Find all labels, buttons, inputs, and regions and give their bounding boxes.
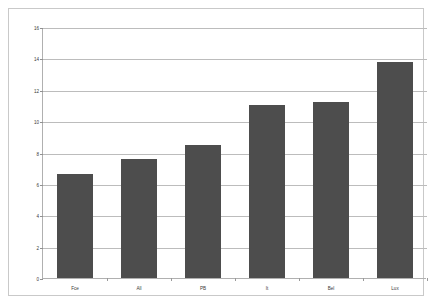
y-axis-tick-mark [40, 28, 43, 29]
x-axis-tick-mark [171, 278, 172, 281]
y-axis-tick-label: 4 [36, 214, 39, 219]
gridline [43, 91, 427, 92]
y-axis-tick-label: 10 [34, 120, 39, 125]
gridline [43, 248, 427, 249]
y-axis-tick-label: 2 [36, 245, 39, 250]
figure-frame: 0246810121416 FceAllPBItBelLux [8, 8, 424, 296]
x-axis-tick-label: Fce [71, 286, 79, 292]
y-axis-tick-mark [40, 185, 43, 186]
y-axis-tick-label: 6 [36, 182, 39, 187]
y-axis-tick-mark [40, 279, 43, 280]
x-axis-tick-label: PB [200, 286, 206, 292]
bar [377, 62, 413, 278]
y-axis-tick-label: 12 [34, 88, 39, 93]
x-axis-tick-mark [427, 278, 428, 281]
x-axis-tick-label: Lux [391, 286, 398, 292]
plot-area: 0246810121416 FceAllPBItBelLux [42, 28, 426, 279]
bar [185, 145, 221, 278]
x-axis-tick-label: All [136, 286, 141, 292]
bar [121, 159, 157, 278]
y-axis-tick-mark [40, 154, 43, 155]
y-axis-tick-label: 16 [34, 26, 39, 31]
gridline [43, 28, 427, 29]
y-axis-tick-mark [40, 216, 43, 217]
y-axis-tick-label: 8 [36, 151, 39, 156]
bar [249, 105, 285, 278]
bar [313, 102, 349, 278]
x-axis-tick-mark [235, 278, 236, 281]
x-axis-tick-label: It [266, 286, 269, 292]
gridline [43, 216, 427, 217]
y-axis-tick-label: 14 [34, 57, 39, 62]
y-axis-tick-label: 0 [36, 277, 39, 282]
x-axis-tick-mark [363, 278, 364, 281]
gridline [43, 59, 427, 60]
y-axis-tick-mark [40, 59, 43, 60]
y-axis-tick-mark [40, 248, 43, 249]
gridline [43, 185, 427, 186]
bar [57, 174, 93, 278]
gridline [43, 122, 427, 123]
x-axis-tick-mark [299, 278, 300, 281]
x-axis-tick-mark [107, 278, 108, 281]
y-axis-tick-mark [40, 122, 43, 123]
bar-chart-figure: 0246810121416 FceAllPBItBelLux [0, 0, 448, 307]
gridline [43, 154, 427, 155]
x-axis-tick-label: Bel [328, 286, 335, 292]
y-axis-tick-mark [40, 91, 43, 92]
